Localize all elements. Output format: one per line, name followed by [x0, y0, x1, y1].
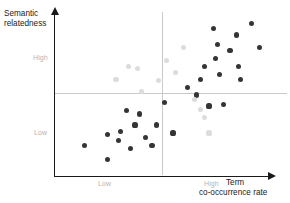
data-point	[238, 77, 243, 82]
data-point	[105, 132, 110, 137]
quadrant-divider-vertical	[162, 12, 163, 175]
x-axis-title-line1: Term	[226, 178, 244, 187]
data-point	[202, 64, 207, 69]
data-point	[156, 78, 161, 83]
data-point	[221, 102, 226, 107]
data-point	[126, 64, 131, 69]
data-point	[211, 26, 216, 31]
data-point	[132, 122, 137, 127]
y-axis-title: Semantic relatedness	[4, 9, 46, 29]
x-axis-tick-high: High	[204, 180, 219, 187]
data-point	[105, 157, 110, 162]
x-axis-line	[54, 176, 270, 177]
data-point	[236, 64, 241, 69]
data-point	[82, 143, 87, 148]
x-axis-title-line2: co-occurrence rate	[199, 188, 267, 198]
x-axis-title: Term co-occurrence rate	[226, 178, 244, 188]
data-point	[215, 42, 220, 47]
data-point	[135, 66, 140, 71]
data-point	[227, 48, 232, 53]
data-point	[234, 32, 239, 37]
data-point	[124, 108, 129, 113]
y-axis-arrow-icon	[51, 7, 59, 15]
y-axis-title-line1: Semantic	[4, 9, 46, 19]
data-point	[137, 111, 142, 116]
data-point	[249, 21, 254, 26]
y-axis-tick-low: Low	[34, 129, 47, 136]
data-point	[162, 100, 167, 105]
data-point	[118, 129, 123, 134]
data-point	[198, 77, 203, 82]
data-point	[154, 122, 159, 127]
data-point	[257, 45, 262, 50]
data-point	[198, 107, 203, 112]
y-axis-tick-high: High	[33, 54, 48, 61]
data-point	[217, 72, 222, 77]
x-axis-tick-low: Low	[98, 180, 111, 187]
data-point	[206, 103, 211, 108]
data-point	[149, 143, 154, 148]
data-point	[164, 58, 169, 63]
data-point	[170, 130, 175, 135]
y-axis-title-line2: relatedness	[4, 19, 46, 29]
scatter-plot-figure: High Low Low High Semantic relatedness T…	[0, 0, 290, 203]
quadrant-divider-horizontal	[55, 93, 287, 94]
data-point	[185, 85, 190, 90]
data-point	[192, 97, 197, 102]
x-axis-arrow-icon	[268, 172, 276, 180]
data-point	[181, 45, 186, 50]
data-point	[213, 56, 218, 61]
data-point	[202, 115, 207, 120]
data-point	[206, 130, 211, 135]
data-point	[173, 70, 178, 75]
data-point	[143, 135, 148, 140]
data-point	[116, 138, 121, 143]
y-axis-line	[54, 14, 55, 177]
data-point	[128, 146, 133, 151]
data-point	[139, 89, 144, 94]
data-point	[113, 77, 118, 82]
